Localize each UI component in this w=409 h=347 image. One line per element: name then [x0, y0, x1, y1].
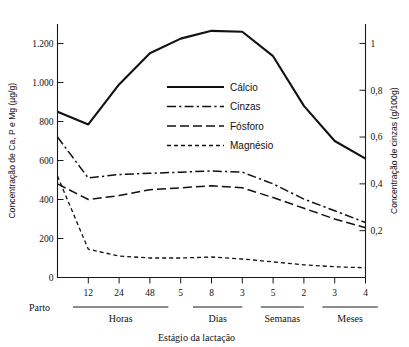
lactation-mineral-chart: 02004006008001.0001.2000,20,40,60,811224…: [0, 0, 409, 347]
right-axis-tick-label: 0,8: [371, 86, 383, 96]
right-axis-tick-label: 1: [371, 39, 376, 49]
right-axis-title: Concentração de cinzas (g/100g): [389, 87, 399, 214]
x-axis-tick-label: 48: [145, 288, 155, 298]
x-axis-tick-label: 2: [302, 288, 307, 298]
left-axis-title: Concentração de Ca, P e Mg (µg/g): [7, 83, 17, 219]
x-axis-tick-label: 24: [114, 288, 124, 298]
x-group-label-meses: Meses: [337, 313, 363, 324]
series-line-clcio: [58, 31, 366, 159]
x-group-label-semanas: Semanas: [265, 313, 301, 324]
x-group-label-dias: Dias: [208, 313, 226, 324]
x-axis-title: Estágio da lactação: [158, 332, 235, 343]
legend-label-clcio: Cálcio: [230, 82, 258, 93]
series-line-cinzas: [58, 137, 366, 222]
left-axis-tick-label: 0: [49, 273, 54, 283]
right-axis-tick-label: 0,4: [371, 179, 383, 189]
x-axis-tick-label: 3: [332, 288, 337, 298]
x-axis-tick-label: 3: [240, 288, 245, 298]
x-group-label-horas: Horas: [109, 313, 133, 324]
left-axis-tick-label: 600: [39, 156, 54, 166]
series-line-magnsio: [58, 176, 366, 268]
x-axis-tick-label: 12: [84, 288, 94, 298]
left-axis-tick-label: 1.000: [32, 78, 54, 88]
x-axis-tick-label: 5: [271, 288, 276, 298]
chart-canvas: 02004006008001.0001.2000,20,40,60,811224…: [0, 0, 409, 347]
left-axis-tick-label: 400: [39, 195, 54, 205]
x-axis-tick-label: 5: [178, 288, 183, 298]
x-group-label-parto: Parto: [29, 302, 50, 313]
right-axis-tick-label: 0,2: [371, 226, 383, 236]
left-and-bottom-axis: [58, 24, 366, 278]
x-axis-tick-label: 4: [363, 288, 368, 298]
x-axis-tick-label: 8: [209, 288, 214, 298]
legend-label-cinzas: Cinzas: [230, 101, 261, 112]
right-axis-tick-label: 0,6: [371, 132, 383, 142]
left-axis-tick-label: 1.200: [32, 39, 54, 49]
legend-label-fsforo: Fósforo: [230, 121, 264, 132]
series-line-fsforo: [58, 184, 366, 228]
legend-label-magnsio: Magnésio: [230, 140, 274, 151]
left-axis-tick-label: 800: [39, 117, 54, 127]
left-axis-tick-label: 200: [39, 234, 54, 244]
